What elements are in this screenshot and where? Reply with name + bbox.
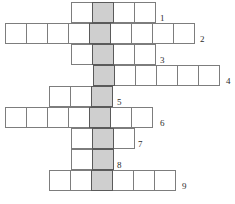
clue-number-6: 6 — [160, 119, 165, 128]
crossword-cell[interactable] — [70, 86, 92, 107]
crossword-cell[interactable] — [135, 65, 157, 86]
clue-number-1: 1 — [160, 14, 165, 23]
crossword-cell[interactable] — [177, 65, 199, 86]
crossword-cell[interactable] — [156, 65, 178, 86]
crossword-cell[interactable] — [114, 65, 136, 86]
crossword-cell[interactable] — [91, 86, 113, 107]
crossword-cell[interactable] — [92, 149, 114, 170]
crossword-cell[interactable] — [71, 149, 93, 170]
crossword-cell[interactable] — [92, 44, 114, 65]
crossword-cell[interactable] — [112, 170, 134, 191]
crossword-cell[interactable] — [71, 2, 93, 23]
clue-number-2: 2 — [200, 35, 205, 44]
crossword-cell[interactable] — [5, 23, 27, 44]
crossword-cell[interactable] — [113, 2, 135, 23]
crossword-cell[interactable] — [92, 128, 114, 149]
clue-number-5: 5 — [117, 98, 122, 107]
clue-number-9: 9 — [182, 182, 187, 191]
crossword-cell[interactable] — [47, 107, 69, 128]
crossword-cell[interactable] — [92, 2, 114, 23]
crossword-cell[interactable] — [154, 170, 176, 191]
crossword-cell[interactable] — [93, 65, 115, 86]
crossword-cell[interactable] — [113, 128, 135, 149]
crossword-cell[interactable] — [198, 65, 220, 86]
crossword-cell[interactable] — [26, 107, 48, 128]
crossword-cell[interactable] — [47, 23, 69, 44]
crossword-cell[interactable] — [26, 23, 48, 44]
clue-number-4: 4 — [226, 77, 231, 86]
crossword-cell[interactable] — [68, 23, 90, 44]
crossword-cell[interactable] — [113, 44, 135, 65]
crossword-cell[interactable] — [91, 170, 113, 191]
crossword-cell[interactable] — [5, 107, 27, 128]
crossword-cell[interactable] — [68, 107, 90, 128]
crossword-cell[interactable] — [110, 107, 132, 128]
crossword-puzzle: 123456789 — [0, 0, 235, 204]
crossword-cell[interactable] — [131, 107, 153, 128]
crossword-cell[interactable] — [71, 128, 93, 149]
clue-number-3: 3 — [160, 56, 165, 65]
crossword-cell[interactable] — [133, 170, 155, 191]
crossword-cell[interactable] — [49, 170, 71, 191]
crossword-cell[interactable] — [70, 170, 92, 191]
crossword-cell[interactable] — [89, 23, 111, 44]
clue-number-7: 7 — [138, 140, 143, 149]
crossword-cell[interactable] — [134, 2, 156, 23]
crossword-cell[interactable] — [131, 23, 153, 44]
crossword-cell[interactable] — [134, 44, 156, 65]
crossword-cell[interactable] — [110, 23, 132, 44]
crossword-cell[interactable] — [71, 44, 93, 65]
crossword-cell[interactable] — [89, 107, 111, 128]
crossword-cell[interactable] — [152, 23, 174, 44]
clue-number-8: 8 — [117, 161, 122, 170]
crossword-cell[interactable] — [173, 23, 195, 44]
crossword-cell[interactable] — [49, 86, 71, 107]
